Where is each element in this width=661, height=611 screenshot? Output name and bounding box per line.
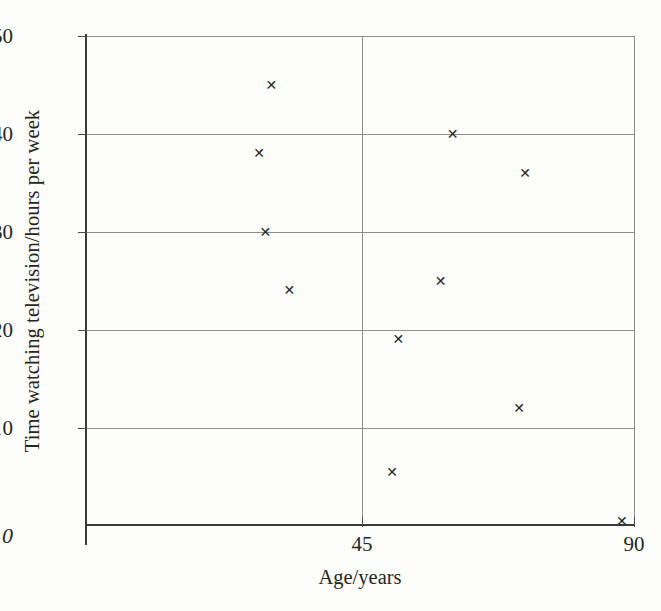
y-axis-tick-label: 10 xyxy=(0,418,13,439)
y-axis-tick xyxy=(78,330,87,331)
data-point-marker: ✕ xyxy=(519,167,532,180)
data-point-marker: ✕ xyxy=(392,333,405,346)
gridline-vertical xyxy=(362,36,363,526)
gridline-horizontal xyxy=(86,428,634,429)
y-axis-tick-label: 20 xyxy=(0,320,13,341)
data-point-marker: ✕ xyxy=(259,226,272,239)
x-axis-title: Age/years xyxy=(86,566,634,589)
data-point-marker: ✕ xyxy=(615,515,628,528)
plot-area: ✕✕✕✕✕✕✕✕✕✕✕ xyxy=(86,36,634,526)
y-axis-tick xyxy=(78,134,87,135)
y-axis-title: Time watching television/hours per week xyxy=(14,36,50,526)
gridline-horizontal xyxy=(86,134,634,135)
data-point-marker: ✕ xyxy=(434,275,447,288)
data-point-marker: ✕ xyxy=(253,147,266,160)
plot-right-border xyxy=(634,36,635,526)
data-point-marker: ✕ xyxy=(283,284,296,297)
y-axis-tick-label: 50 xyxy=(0,26,13,47)
y-axis-tick xyxy=(78,428,87,429)
scatter-plot-figure: ✕✕✕✕✕✕✕✕✕✕✕ 010203040504590 Time watchin… xyxy=(0,0,661,611)
x-axis-tick xyxy=(362,517,363,527)
data-point-marker: ✕ xyxy=(386,466,399,479)
x-axis-tick-label: 45 xyxy=(352,534,373,555)
x-axis-tick xyxy=(634,517,635,527)
data-point-marker: ✕ xyxy=(265,79,278,92)
y-axis-tick-label: 0 xyxy=(2,525,13,547)
data-point-marker: ✕ xyxy=(513,402,526,415)
gridline-horizontal xyxy=(86,232,634,233)
gridline-horizontal xyxy=(86,330,634,331)
x-axis-tick-label: 90 xyxy=(624,534,645,555)
data-point-marker: ✕ xyxy=(446,128,459,141)
y-axis-tick xyxy=(78,36,87,37)
y-axis-tick xyxy=(78,232,87,233)
gridline-horizontal xyxy=(86,36,634,37)
y-axis-tick-label: 40 xyxy=(0,124,13,145)
y-axis-tick-label: 30 xyxy=(0,222,13,243)
